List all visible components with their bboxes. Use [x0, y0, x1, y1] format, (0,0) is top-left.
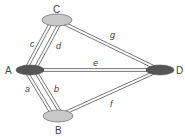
- nodes-layer: [16, 14, 174, 122]
- edge-label-g: g: [110, 30, 115, 40]
- node-label-d: D: [176, 65, 183, 76]
- edge-f: [57, 69, 160, 118]
- edge-label-a: a: [25, 84, 30, 94]
- edge-g: [56, 19, 160, 72]
- edge-label-b: b: [54, 84, 59, 94]
- node-b: [43, 110, 73, 122]
- edge-e: [30, 69, 160, 72]
- edges-layer: [25, 17, 160, 118]
- graph-diagram: A B C D a b c d e f g: [0, 0, 185, 137]
- node-label-b: B: [55, 125, 62, 136]
- graph-canvas: A B C D a b c d e f g: [0, 0, 185, 137]
- node-d: [146, 65, 174, 75]
- edge-label-d: d: [56, 41, 62, 51]
- node-label-a: A: [5, 65, 12, 76]
- edge-label-e: e: [93, 58, 98, 68]
- node-label-c: C: [53, 4, 60, 15]
- edge-label-c: c: [30, 39, 35, 49]
- node-c: [42, 14, 72, 26]
- edge-label-f: f: [110, 99, 114, 109]
- node-a: [16, 65, 44, 75]
